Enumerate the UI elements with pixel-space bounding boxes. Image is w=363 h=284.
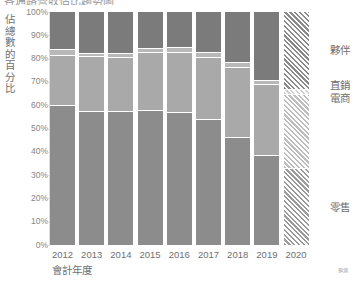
- y-tick-mark: [46, 35, 49, 36]
- bar-segment-夥伴[interactable]: [196, 12, 221, 52]
- y-tick-mark: [46, 222, 49, 223]
- bar-segment-夥伴[interactable]: [254, 12, 279, 80]
- legend-item-label: 零售: [330, 201, 350, 213]
- plot-area: [50, 12, 310, 245]
- bar-segment-零售[interactable]: [50, 105, 75, 245]
- bar-2016[interactable]: [167, 12, 192, 245]
- legend-item-label: 直銷: [330, 79, 350, 91]
- y-tick-mark: [46, 245, 49, 246]
- x-tick-label-2019: 2019: [252, 250, 282, 260]
- y-axis-label: 佔總數的百分比: [2, 14, 17, 95]
- y-tick-mark: [46, 198, 49, 199]
- bar-segment-零售[interactable]: [79, 111, 104, 245]
- y-tick-mark: [46, 175, 49, 176]
- y-axis-ticks: 100%90%80%70%60%50%40%30%20%10%0%: [18, 0, 48, 284]
- x-tick-label-2014: 2014: [106, 250, 136, 260]
- x-tick-label-2015: 2015: [135, 250, 165, 260]
- bar-segment-零售[interactable]: [225, 137, 250, 245]
- bar-2014[interactable]: [108, 12, 133, 245]
- bar-segment-電商[interactable]: [225, 67, 250, 137]
- bar-segment-零售[interactable]: [167, 112, 192, 245]
- bar-2013[interactable]: [79, 12, 104, 245]
- bar-segment-電商[interactable]: [138, 52, 163, 110]
- bar-segment-夥伴[interactable]: [225, 12, 250, 62]
- y-tick-mark: [46, 129, 49, 130]
- bar-segment-電商[interactable]: [196, 57, 221, 119]
- legend-item-電商[interactable]: 電商: [330, 92, 350, 104]
- stacked-bar-chart: 各通路營收佔比趨勢圖 佔總數的百分比 100%90%80%70%60%50%40…: [0, 0, 363, 284]
- legend-item-夥伴[interactable]: 夥伴: [330, 44, 350, 56]
- y-tick-mark: [46, 82, 49, 83]
- x-axis-label: 會計年度: [52, 264, 92, 276]
- bar-2012[interactable]: [50, 12, 75, 245]
- y-tick-mark: [46, 12, 49, 13]
- bar-2018[interactable]: [225, 12, 250, 245]
- bar-segment-電商[interactable]: [50, 55, 75, 105]
- bar-segment-電商[interactable]: [284, 94, 309, 169]
- bar-segment-夥伴[interactable]: [284, 12, 309, 89]
- y-tick-mark: [46, 105, 49, 106]
- x-tick-label-2018: 2018: [223, 250, 253, 260]
- bar-segment-夥伴[interactable]: [167, 12, 192, 47]
- legend-item-label: 夥伴: [330, 44, 350, 56]
- bar-segment-零售[interactable]: [254, 155, 279, 245]
- bar-segment-夥伴[interactable]: [138, 12, 163, 48]
- y-tick-label: 100%: [26, 8, 48, 17]
- bar-2019[interactable]: [254, 12, 279, 245]
- y-tick-mark: [46, 152, 49, 153]
- legend-item-直銷[interactable]: 直銷: [330, 79, 350, 91]
- bar-2015[interactable]: [138, 12, 163, 245]
- y-tick-mark: [46, 59, 49, 60]
- bar-segment-零售[interactable]: [108, 111, 133, 245]
- legend-item-label: 電商: [330, 92, 350, 104]
- x-tick-label-2012: 2012: [48, 250, 78, 260]
- bar-segment-電商[interactable]: [79, 56, 104, 111]
- bar-segment-夥伴[interactable]: [79, 12, 104, 53]
- x-tick-label-2020: 2020: [281, 250, 311, 260]
- legend-item-零售[interactable]: 零售: [330, 201, 350, 213]
- bar-segment-零售[interactable]: [138, 110, 163, 245]
- forecast-note: 預測: [338, 267, 348, 273]
- bar-segment-電商[interactable]: [167, 52, 192, 113]
- x-tick-label-2017: 2017: [194, 250, 224, 260]
- bar-segment-零售[interactable]: [196, 119, 221, 245]
- bar-segment-零售[interactable]: [284, 168, 309, 245]
- bar-segment-電商[interactable]: [108, 57, 133, 111]
- bar-2017[interactable]: [196, 12, 221, 245]
- bar-segment-夥伴[interactable]: [50, 12, 75, 49]
- x-tick-label-2016: 2016: [164, 250, 194, 260]
- bar-segment-電商[interactable]: [254, 84, 279, 155]
- x-tick-label-2013: 2013: [77, 250, 107, 260]
- bar-segment-夥伴[interactable]: [108, 12, 133, 53]
- bar-2020[interactable]: [284, 12, 309, 245]
